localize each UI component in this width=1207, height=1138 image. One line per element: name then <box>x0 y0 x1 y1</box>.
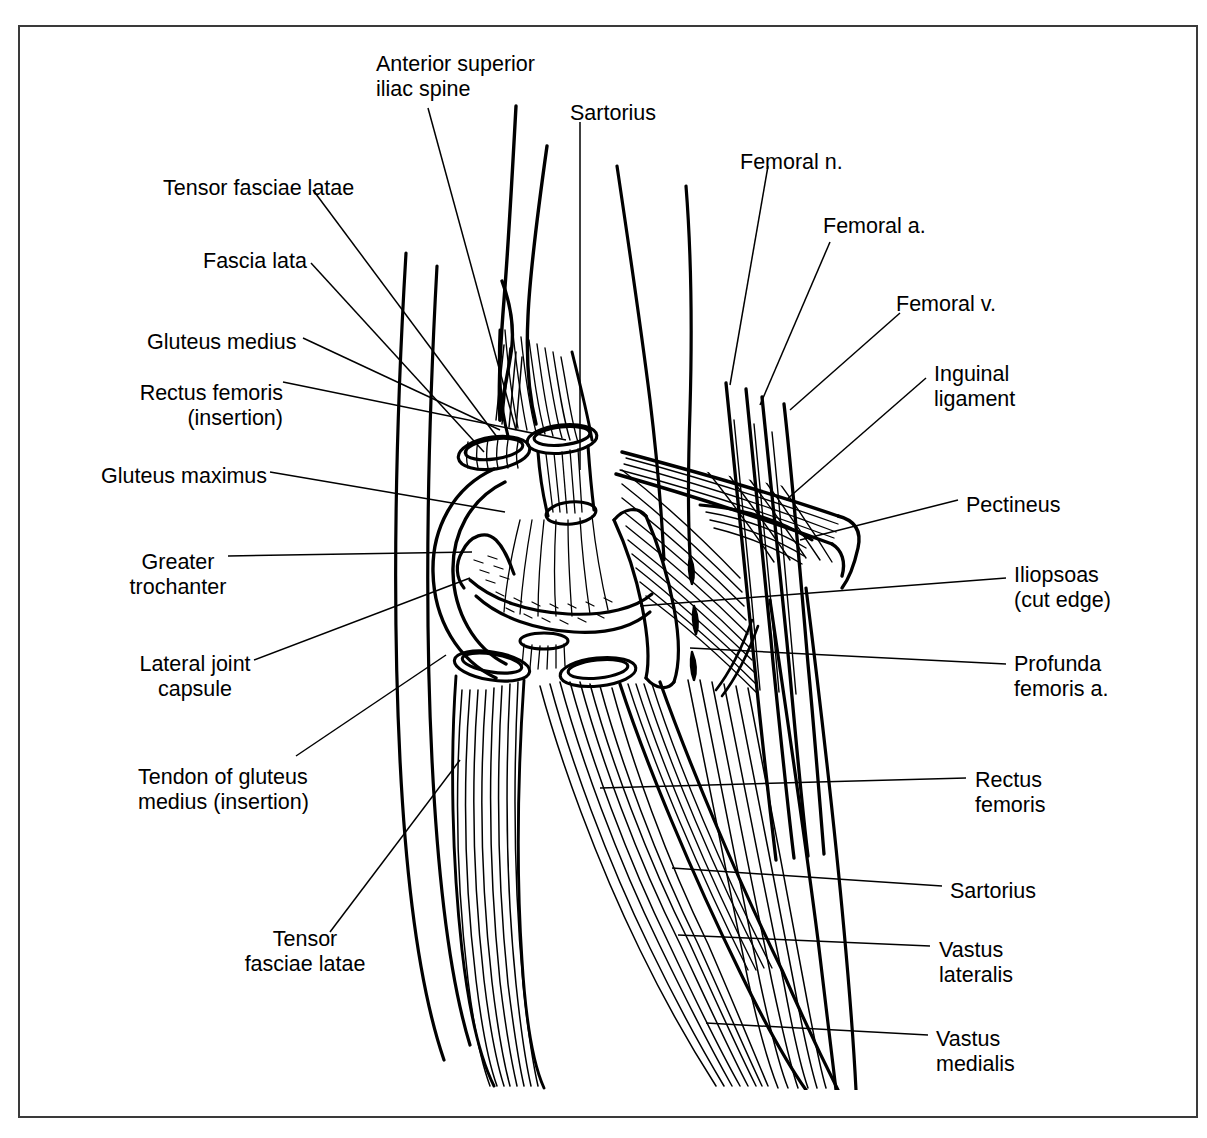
label-tensor-fasciae-latae-lower: Tensor fasciae latae <box>230 927 380 977</box>
anatomy-figure: Anterior superior iliac spine Sartorius … <box>0 0 1207 1138</box>
label-sartorius-right: Sartorius <box>950 879 1036 904</box>
label-greater-trochanter: Greater trochanter <box>128 550 228 600</box>
label-gluteus-maximus: Gluteus maximus <box>101 464 267 489</box>
label-vastus-lateralis: Vastus lateralis <box>939 938 1013 988</box>
label-rectus-femoris-insertion: Rectus femoris (insertion) <box>49 381 283 431</box>
label-anterior-superior-iliac-spine: Anterior superior iliac spine <box>376 52 535 102</box>
label-vastus-medialis: Vastus medialis <box>936 1027 1015 1077</box>
label-pectineus: Pectineus <box>966 493 1060 518</box>
label-inguinal-ligament: Inguinal ligament <box>934 362 1015 412</box>
label-femoral-v: Femoral v. <box>896 292 996 317</box>
label-fascia-lata: Fascia lata <box>203 249 307 274</box>
label-tendon-of-gluteus-medius: Tendon of gluteus medius (insertion) <box>138 765 309 815</box>
label-rectus-femoris: Rectus femoris <box>975 768 1045 818</box>
label-profunda-femoris-a: Profunda femoris a. <box>1014 652 1108 702</box>
label-femoral-n: Femoral n. <box>740 150 843 175</box>
label-femoral-a: Femoral a. <box>823 214 926 239</box>
label-sartorius-top: Sartorius <box>570 101 656 126</box>
label-lateral-joint-capsule: Lateral joint capsule <box>136 652 254 702</box>
label-gluteus-medius: Gluteus medius <box>147 330 296 355</box>
label-iliopsoas-cut-edge: Iliopsoas (cut edge) <box>1014 563 1111 613</box>
label-tensor-fasciae-latae-upper: Tensor fasciae latae <box>163 176 354 201</box>
